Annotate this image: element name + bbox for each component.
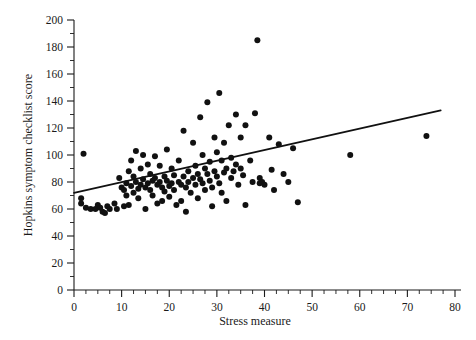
x-tick-label: 0 — [71, 301, 77, 313]
data-point — [195, 171, 201, 177]
data-point — [226, 122, 232, 128]
x-tick-label: 40 — [259, 301, 271, 313]
data-point — [266, 134, 272, 140]
data-point — [116, 175, 122, 181]
data-point — [164, 147, 170, 153]
data-point — [214, 174, 220, 180]
data-point — [211, 168, 217, 174]
data-point — [102, 210, 108, 216]
data-point — [295, 199, 301, 205]
data-point — [271, 187, 277, 193]
data-point — [219, 190, 225, 196]
data-point — [126, 168, 132, 174]
data-point — [211, 134, 217, 140]
data-point — [202, 187, 208, 193]
data-point — [166, 194, 172, 200]
data-point — [231, 168, 237, 174]
data-point — [190, 140, 196, 146]
data-point — [233, 112, 239, 118]
data-point — [183, 209, 189, 215]
data-point — [140, 176, 146, 182]
data-point — [238, 166, 244, 172]
data-point — [138, 166, 144, 172]
data-point — [235, 182, 241, 188]
data-point — [131, 174, 137, 180]
data-point — [200, 180, 206, 186]
data-point — [204, 171, 210, 177]
data-point — [269, 167, 275, 173]
data-point — [159, 198, 165, 204]
x-tick-label: 60 — [354, 301, 366, 313]
data-point — [195, 195, 201, 201]
data-point — [285, 179, 291, 185]
data-point — [250, 179, 256, 185]
y-tick-label: 80 — [52, 176, 64, 188]
data-point — [147, 171, 153, 177]
data-point — [290, 145, 296, 151]
x-tick-label: 10 — [116, 301, 128, 313]
data-point — [114, 206, 120, 212]
data-point — [123, 193, 129, 199]
data-point — [152, 175, 158, 181]
data-point — [223, 166, 229, 172]
data-point — [185, 179, 191, 185]
data-point — [281, 171, 287, 177]
data-point — [169, 180, 175, 186]
data-point — [147, 187, 153, 193]
data-point — [200, 152, 206, 158]
data-point — [347, 152, 353, 158]
data-point — [169, 166, 175, 172]
data-point — [140, 152, 146, 158]
data-point — [197, 114, 203, 120]
data-point — [219, 157, 225, 163]
scatter-plot-figure: 020406080100120140160180200 010203040506… — [0, 0, 476, 340]
data-point — [81, 151, 87, 157]
data-point — [223, 198, 229, 204]
data-point — [214, 149, 220, 155]
data-point — [216, 180, 222, 186]
plot-background — [0, 0, 476, 340]
data-point — [178, 198, 184, 204]
data-point — [242, 202, 248, 208]
x-tick-label: 20 — [164, 301, 176, 313]
data-point — [150, 193, 156, 199]
data-point — [107, 206, 113, 212]
data-point — [126, 202, 132, 208]
data-point — [192, 163, 198, 169]
y-tick-label: 100 — [46, 149, 64, 161]
data-point — [181, 174, 187, 180]
data-point — [78, 195, 84, 201]
data-point — [204, 99, 210, 105]
data-point — [142, 206, 148, 212]
data-point — [133, 148, 139, 154]
data-point — [173, 202, 179, 208]
y-tick-label: 120 — [46, 122, 64, 134]
data-point — [128, 157, 134, 163]
data-point — [161, 188, 167, 194]
data-point — [233, 161, 239, 167]
data-point — [228, 175, 234, 181]
data-point — [423, 133, 429, 139]
data-point — [276, 141, 282, 147]
data-point — [238, 134, 244, 140]
data-point — [128, 183, 134, 189]
data-point — [207, 178, 213, 184]
data-point — [207, 159, 213, 165]
data-point — [242, 122, 248, 128]
data-point — [78, 201, 84, 207]
data-point — [135, 195, 141, 201]
y-tick-label: 40 — [52, 230, 64, 242]
data-point — [121, 187, 127, 193]
data-point — [240, 172, 246, 178]
data-point — [216, 90, 222, 96]
y-tick-label: 20 — [52, 257, 64, 269]
data-point — [181, 128, 187, 134]
y-tick-label: 180 — [46, 41, 64, 53]
data-point — [188, 190, 194, 196]
y-axis-title: Hopkins symptom checklist score — [21, 74, 35, 236]
data-point — [192, 182, 198, 188]
data-point — [209, 203, 215, 209]
data-point — [202, 166, 208, 172]
data-point — [221, 140, 227, 146]
data-point — [157, 179, 163, 185]
